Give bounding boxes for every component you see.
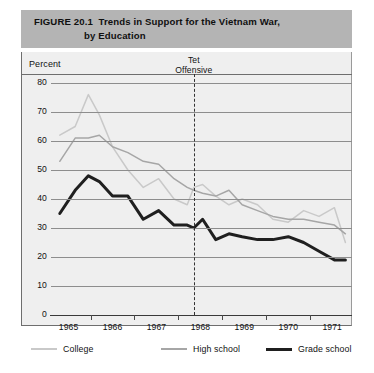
- gridline: [51, 286, 352, 287]
- gridline: [51, 199, 352, 200]
- gridline: [51, 83, 352, 84]
- figure-title: FIGURE 20.1 Trends in Support for the Vi…: [34, 15, 339, 42]
- legend-label: High school: [193, 344, 240, 354]
- chart-legend: CollegeHigh schoolGrade school: [21, 344, 352, 364]
- x-axis-tick-label: 1965: [49, 322, 89, 332]
- gridline: [51, 112, 352, 113]
- x-axis-tick-label: 1970: [268, 322, 308, 332]
- legend-swatch-icon: [161, 348, 187, 350]
- x-axis-tick-label: 1969: [224, 322, 264, 332]
- x-axis-tick-mark: [310, 315, 311, 320]
- y-axis-tick-label: 40: [21, 193, 47, 203]
- figure-title-band: FIGURE 20.1 Trends in Support for the Vi…: [21, 10, 352, 48]
- y-axis-label: Percent: [29, 59, 61, 69]
- figure-title-line1: Trends in Support for the Vietnam War,: [98, 16, 280, 27]
- gridline: [51, 170, 352, 171]
- figure-number: FIGURE 20.1: [34, 16, 93, 27]
- x-axis-tick-mark: [222, 315, 223, 320]
- legend-swatch-icon: [266, 348, 292, 351]
- y-axis-tick-label: 30: [21, 222, 47, 232]
- x-axis-tick-mark: [266, 315, 267, 320]
- figure-title-line2: by Education: [34, 29, 339, 43]
- x-axis-tick-label: 1968: [180, 322, 220, 332]
- x-axis-tick-label: 1971: [312, 322, 352, 332]
- y-axis-tick-label: 50: [21, 164, 47, 174]
- y-axis-tick-label: 80: [21, 77, 47, 87]
- x-axis-tick-label: 1967: [136, 322, 176, 332]
- legend-label: Grade school: [298, 344, 352, 354]
- gridline: [51, 141, 352, 142]
- gridline: [51, 228, 352, 229]
- figure-container: FIGURE 20.1 Trends in Support for the Vi…: [0, 0, 374, 373]
- x-axis-tick-mark: [91, 315, 92, 320]
- chart-plot-area: 8070605040302010019651966196719681969197…: [51, 83, 352, 315]
- legend-swatch-icon: [31, 348, 57, 350]
- legend-item-high-school[interactable]: High school: [161, 344, 240, 354]
- tet-label-line2: Offensive: [175, 65, 212, 75]
- x-axis-tick-label: 1966: [93, 322, 133, 332]
- tet-offensive-label: TetOffensive: [159, 55, 229, 75]
- y-axis-tick-label: 70: [21, 106, 47, 116]
- tet-label-line1: Tet: [188, 55, 200, 65]
- gridline: [51, 257, 352, 258]
- y-axis-tick-label: 60: [21, 135, 47, 145]
- legend-label: College: [63, 344, 94, 354]
- legend-item-college[interactable]: College: [31, 344, 94, 354]
- y-axis-tick-label: 20: [21, 251, 47, 261]
- x-axis-baseline: [50, 315, 352, 316]
- x-axis-tick-mark: [134, 315, 135, 320]
- tet-offensive-marker-line: [194, 74, 195, 315]
- series-line-grade-school: [60, 176, 346, 260]
- legend-item-grade-school[interactable]: Grade school: [266, 344, 352, 354]
- y-axis-tick-label: 10: [21, 280, 47, 290]
- y-axis-tick-label: 0: [21, 309, 47, 319]
- x-axis-tick-mark: [178, 315, 179, 320]
